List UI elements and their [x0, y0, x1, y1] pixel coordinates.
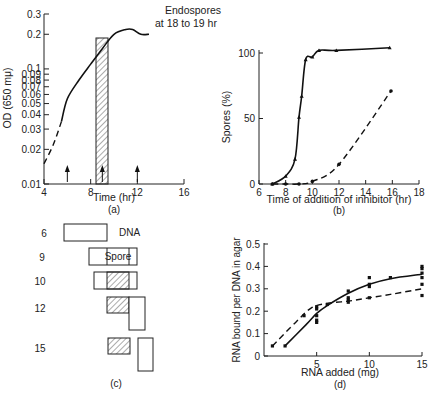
x-tick-label: 15 — [416, 359, 428, 370]
panel-a-caption: (a) — [108, 204, 120, 215]
square-marker — [315, 307, 318, 310]
panel-c-dna-box-12 — [129, 297, 145, 330]
panel-d-caption: (d) — [334, 379, 346, 390]
arrow-up-icon — [65, 165, 70, 172]
panel-a-arrow-icons — [65, 165, 140, 182]
panel-d: 00.10.20.30.40.5 51015 RNA added (mg) (d… — [231, 237, 428, 390]
panel-c-spore-hatched-10 — [107, 272, 129, 289]
panel-c-spore-hatched-12 — [107, 297, 129, 313]
circle-marker — [297, 182, 301, 186]
y-tick-label: 0.3 — [27, 9, 41, 20]
triangle-marker — [297, 115, 301, 119]
square-marker — [271, 344, 274, 347]
square-marker — [420, 276, 423, 279]
y-tick-label: 0.01 — [22, 179, 42, 190]
x-tick-label: 16 — [178, 187, 190, 198]
panel-c-row-label-6: 6 — [41, 228, 47, 239]
panel-c-dna-label: DNA — [119, 227, 140, 238]
panel-c-caption: (c) — [110, 378, 122, 389]
y-tick-label: 0.2 — [246, 306, 260, 317]
circle-marker — [271, 182, 275, 186]
y-tick-label: 0.03 — [22, 124, 42, 135]
y-tick-label: 50 — [244, 113, 256, 124]
panel-c-row-label-15: 15 — [34, 343, 46, 354]
panel-a-annotation-line1: Endospores — [165, 4, 221, 16]
figure-canvas: 0.010.020.030.040.050.060.070.080.090.10… — [0, 0, 436, 404]
x-tick-label: 4 — [41, 187, 47, 198]
y-tick-label: 0.5 — [246, 239, 260, 250]
panel-d-solid-curve — [285, 274, 422, 346]
square-marker — [347, 289, 350, 292]
panel-b-y-label: Spores (%) — [220, 91, 232, 144]
panel-c-spore-label: Spore — [105, 251, 132, 262]
y-tick-label: 0.02 — [22, 144, 42, 155]
panel-a-x-label: Time (hr) — [93, 191, 135, 203]
square-marker — [420, 283, 423, 286]
panel-a-annotation-line2: at 18 to 19 hr — [155, 17, 217, 29]
square-marker — [420, 272, 423, 275]
panel-b: 050100 681012141618 Time of addition of … — [220, 46, 425, 216]
panel-c-row-label-9: 9 — [39, 252, 45, 263]
y-tick-label: 0.3 — [246, 283, 260, 294]
panel-c-dna-box-6 — [64, 224, 107, 241]
panel-c: 6 9 10 12 15 DNA Spore (c) — [34, 224, 153, 389]
square-marker — [283, 344, 286, 347]
panel-c-spore-hatched-15 — [108, 338, 130, 354]
square-marker — [368, 285, 371, 288]
square-marker — [420, 294, 423, 297]
y-tick-label: 0.4 — [246, 261, 260, 272]
panel-c-row-label-12: 12 — [34, 303, 46, 314]
square-marker — [420, 267, 423, 270]
square-marker — [315, 314, 318, 317]
panel-b-caption: (b) — [333, 205, 345, 216]
square-marker — [326, 303, 329, 306]
circle-marker — [311, 180, 315, 184]
panel-b-x-label: Time of addition of inhibitor (hr) — [267, 193, 412, 205]
square-marker — [302, 314, 305, 317]
triangle-marker — [304, 58, 308, 62]
y-tick-label: 0 — [254, 351, 260, 362]
y-tick-label: 0.1 — [246, 328, 260, 339]
panel-a: 0.010.020.030.040.050.060.070.080.090.10… — [1, 4, 221, 215]
square-marker — [389, 276, 392, 279]
circle-marker — [337, 163, 341, 167]
panel-a-extrapolated-curve — [44, 121, 62, 163]
panel-d-y-label: RNA bound per DNA in agar — [231, 237, 242, 363]
x-tick-label: 18 — [413, 187, 425, 198]
triangle-marker — [293, 157, 297, 161]
panel-b-solid-curve — [272, 48, 389, 184]
panel-d-x-label: RNA added (mg) — [301, 366, 379, 378]
arrow-up-icon — [135, 165, 140, 172]
y-tick-label: 0.1 — [27, 63, 41, 74]
y-tick-label: 100 — [238, 48, 255, 59]
panel-a-y-label: OD (650 mμ) — [1, 68, 13, 129]
panel-a-shaded-interval — [96, 38, 108, 184]
panel-c-row-label-10: 10 — [34, 276, 46, 287]
square-marker — [368, 276, 371, 279]
circle-marker — [284, 182, 288, 186]
square-marker — [368, 296, 371, 299]
y-tick-label: 0.04 — [22, 109, 42, 120]
square-marker — [315, 321, 318, 324]
panel-d-y-ticks: 00.10.20.30.40.5 — [246, 239, 268, 362]
triangle-marker — [300, 94, 304, 98]
square-marker — [347, 301, 350, 304]
y-tick-label: 0 — [249, 179, 255, 190]
y-tick-label: 0.2 — [27, 29, 41, 40]
circle-marker — [389, 89, 393, 93]
panel-c-dna-box-15 — [138, 338, 153, 371]
x-tick-label: 6 — [256, 187, 262, 198]
